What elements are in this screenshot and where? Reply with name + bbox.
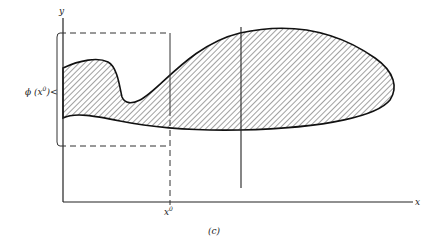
y-axis-label: y xyxy=(58,6,65,16)
phi-label-text: ϕ (x xyxy=(25,87,43,97)
phi-label: ϕ (x0) xyxy=(25,85,50,97)
x-axis-label: x xyxy=(415,197,420,207)
bracket-symbol: < xyxy=(50,87,58,97)
diagram-canvas: y x ϕ (x0) < x0 (c) xyxy=(0,0,446,249)
x0-label-superscript: 0 xyxy=(169,205,173,212)
shaded-region xyxy=(63,28,394,130)
x0-label: x0 xyxy=(164,205,173,217)
figure-caption: (c) xyxy=(208,226,221,236)
